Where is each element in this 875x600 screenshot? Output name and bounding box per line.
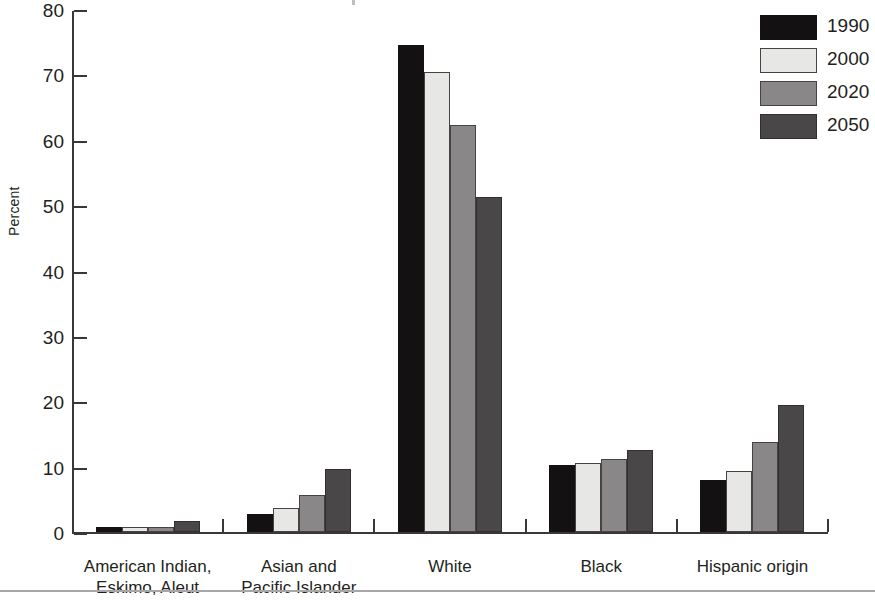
x-axis-category-label: White bbox=[374, 556, 525, 577]
y-axis-tick bbox=[74, 337, 87, 339]
y-axis-tick bbox=[74, 141, 87, 143]
bar bbox=[174, 521, 200, 532]
y-axis-title: Percent bbox=[6, 186, 22, 236]
legend-item-label: 1990 bbox=[827, 16, 869, 37]
x-axis-category-label: Hispanic origin bbox=[677, 556, 828, 577]
category-label-line: Hispanic origin bbox=[677, 556, 828, 577]
y-axis-tick bbox=[74, 10, 87, 12]
y-axis-tick-label: 10 bbox=[43, 459, 64, 478]
bar bbox=[601, 459, 627, 532]
legend-item-label: 2020 bbox=[827, 82, 869, 103]
bar bbox=[424, 72, 450, 532]
x-axis-tick bbox=[676, 519, 678, 532]
y-axis-tick-label: 60 bbox=[43, 132, 64, 151]
bar bbox=[247, 514, 273, 532]
bar bbox=[398, 45, 424, 532]
x-axis-tick bbox=[222, 519, 224, 532]
bar bbox=[476, 197, 502, 532]
legend-item-label: 2000 bbox=[827, 49, 869, 70]
y-axis-tick-label: 50 bbox=[43, 197, 64, 216]
category-label-line: Black bbox=[526, 556, 677, 577]
category-label-line: Eskimo, Aleut bbox=[72, 577, 223, 598]
bar bbox=[299, 495, 325, 532]
category-label-line: White bbox=[374, 556, 525, 577]
bar bbox=[752, 442, 778, 532]
cropped-title-descender bbox=[352, 0, 355, 5]
legend-swatch-2050 bbox=[760, 114, 817, 139]
plot-area: 01020304050607080 American Indian,Eskimo… bbox=[72, 11, 828, 534]
y-axis-tick-label: 70 bbox=[43, 66, 64, 85]
legend-item: 1990 bbox=[760, 12, 872, 45]
y-axis-tick bbox=[74, 272, 87, 274]
y-axis-tick bbox=[74, 468, 87, 470]
y-axis-tick bbox=[74, 206, 87, 208]
bar bbox=[325, 469, 351, 532]
bar bbox=[575, 463, 601, 532]
y-axis-tick-label: 0 bbox=[53, 524, 64, 543]
bar-group bbox=[96, 11, 200, 532]
bar bbox=[96, 527, 122, 532]
y-axis-tick-label: 20 bbox=[43, 393, 64, 412]
legend-swatch-2020 bbox=[760, 81, 817, 106]
x-axis-tick bbox=[373, 519, 375, 532]
legend-swatch-2000 bbox=[760, 48, 817, 73]
bar bbox=[778, 405, 804, 532]
bottom-divider bbox=[0, 590, 875, 592]
x-axis-tick bbox=[525, 519, 527, 532]
category-label-line: Asian and bbox=[223, 556, 374, 577]
bar bbox=[273, 508, 299, 532]
legend-item-label: 2050 bbox=[827, 115, 869, 136]
bar-group bbox=[398, 11, 502, 532]
category-label-line: Pacific Islander bbox=[223, 577, 374, 598]
y-axis-tick bbox=[74, 75, 87, 77]
x-axis-line bbox=[72, 532, 828, 534]
legend-item: 2020 bbox=[760, 78, 872, 111]
x-axis-category-label: Black bbox=[526, 556, 677, 577]
x-axis-tick bbox=[827, 519, 829, 532]
y-axis-tick-label: 30 bbox=[43, 328, 64, 347]
y-axis-tick bbox=[74, 533, 87, 535]
bar bbox=[700, 480, 726, 532]
bar bbox=[148, 527, 174, 532]
y-axis-tick bbox=[74, 402, 87, 404]
bar bbox=[726, 471, 752, 532]
legend: 1990200020202050 bbox=[760, 12, 872, 144]
bar bbox=[627, 450, 653, 532]
legend-swatch-1990 bbox=[760, 15, 817, 40]
legend-item: 2050 bbox=[760, 111, 872, 144]
bar bbox=[450, 125, 476, 532]
bar-chart-figure: 01020304050607080 American Indian,Eskimo… bbox=[0, 0, 875, 600]
bar bbox=[549, 465, 575, 532]
y-axis-tick-label: 40 bbox=[43, 263, 64, 282]
legend-item: 2000 bbox=[760, 45, 872, 78]
bar-group bbox=[549, 11, 653, 532]
bar-group bbox=[247, 11, 351, 532]
bar bbox=[122, 527, 148, 532]
category-label-line: American Indian, bbox=[72, 556, 223, 577]
y-axis-tick-label: 80 bbox=[43, 1, 64, 20]
y-axis-tick-labels: 01020304050607080 bbox=[12, 11, 64, 534]
